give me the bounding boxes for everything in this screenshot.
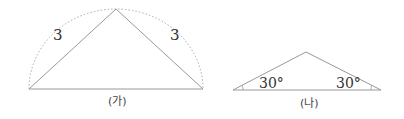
angle-arc-left [242, 85, 243, 90]
side-label-left: 3 [53, 26, 63, 44]
diagram-canvas: 3 3 (가) 30° 30° (나) [0, 0, 404, 119]
caption-a: (가) [108, 95, 127, 108]
caption-b: (나) [300, 97, 319, 110]
triangle-a-right-side [116, 9, 203, 89]
triangle-a-left-side [29, 9, 116, 89]
angle-label-left: 30° [259, 75, 284, 91]
figure-b: 30° 30° (나) [233, 52, 381, 110]
side-label-right: 3 [170, 26, 180, 44]
angle-arc-right [371, 85, 372, 90]
semicircle-arc [29, 9, 203, 89]
figure-a: 3 3 (가) [29, 9, 203, 108]
angle-label-right: 30° [336, 75, 361, 91]
